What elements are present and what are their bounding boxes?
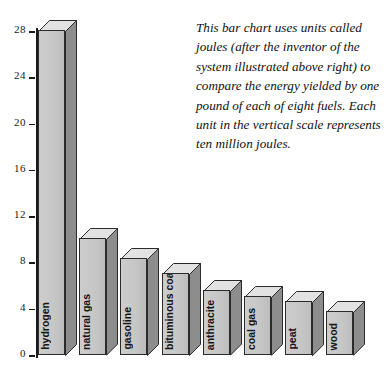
bar-label: peat xyxy=(286,328,312,350)
bar-peat: peat xyxy=(285,291,323,355)
bar-coal-gas: coal gas xyxy=(244,286,282,355)
bar-label: gasoline xyxy=(121,307,147,350)
bar-natural-gas: natural gas xyxy=(79,228,117,355)
bar-front-face: bituminous coal xyxy=(162,273,189,355)
bar-side-face xyxy=(147,248,160,357)
bar-side-face xyxy=(353,301,366,357)
bar-front-face: anthracite xyxy=(203,290,230,355)
bar-side-face xyxy=(312,291,325,357)
chart-caption: This bar chart uses units called joules … xyxy=(196,18,382,154)
bar-wood: wood xyxy=(326,301,364,355)
bar-side-face xyxy=(106,228,119,357)
bar-front-face: natural gas xyxy=(79,238,106,355)
bar-side-face xyxy=(65,20,78,357)
bar-front-face: coal gas xyxy=(244,296,271,355)
bar-anthracite: anthracite xyxy=(203,280,241,355)
bar-label: hydrogen xyxy=(39,302,65,350)
bar-front-face: peat xyxy=(285,301,312,355)
bar-label: wood xyxy=(327,323,353,350)
bar-gasoline: gasoline xyxy=(120,248,158,355)
bar-front-face: gasoline xyxy=(120,258,147,355)
bar-side-face xyxy=(230,280,243,357)
bar-side-face xyxy=(189,263,202,357)
bar-front-face: hydrogen xyxy=(38,30,65,355)
bar-label: anthracite xyxy=(204,300,230,350)
bar-chart-figure: 2824201612840 hydrogennatural gasgasolin… xyxy=(0,0,389,372)
bar-label: natural gas xyxy=(80,294,106,350)
bar-hydrogen: hydrogen xyxy=(38,20,76,355)
bar-bituminous-coal: bituminous coal xyxy=(162,263,200,355)
bar-front-face: wood xyxy=(326,311,353,355)
bar-side-face xyxy=(271,286,284,357)
bar-label: bituminous coal xyxy=(163,273,189,350)
bar-label: coal gas xyxy=(245,308,271,350)
